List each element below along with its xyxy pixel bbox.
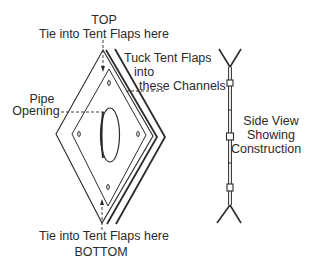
side-bracket-top — [227, 80, 233, 86]
side-bracket-bottom — [227, 184, 233, 191]
side-view-label-line3: Construction — [231, 142, 301, 156]
side-view-label-line2: Showing — [247, 128, 295, 142]
top-arrow — [101, 40, 105, 72]
bottom-tie-label: Tie into Tent Flaps here — [39, 229, 169, 243]
bottom-arrow — [100, 199, 104, 230]
top-tie-label: Tie into Tent Flaps here — [39, 27, 169, 41]
pipe-label-line2: Opening — [12, 104, 59, 118]
tuck-label-line1: Tuck Tent Flaps — [124, 51, 212, 65]
bottom-label: BOTTOM — [74, 245, 127, 259]
tie-hole-top — [108, 81, 111, 86]
tie-hole-left — [78, 132, 81, 137]
pipe-opening — [101, 108, 120, 162]
stove-jack-diagram: TOP Tie into Tent Flaps here Pipe Openin… — [0, 0, 315, 267]
tie-hole-right — [137, 132, 140, 137]
side-view — [217, 49, 241, 223]
top-label: TOP — [91, 13, 116, 27]
tie-hole-bottom — [107, 185, 110, 190]
tuck-label-line2: into — [134, 65, 154, 79]
side-bracket-middle — [227, 133, 234, 140]
side-view-label-line1: Side View — [243, 114, 299, 128]
